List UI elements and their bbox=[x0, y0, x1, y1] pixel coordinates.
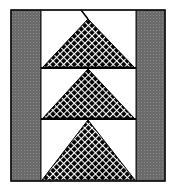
left-side-strip bbox=[11, 10, 41, 181]
quilt-block-diagram bbox=[0, 0, 171, 191]
right-side-strip bbox=[136, 10, 165, 181]
